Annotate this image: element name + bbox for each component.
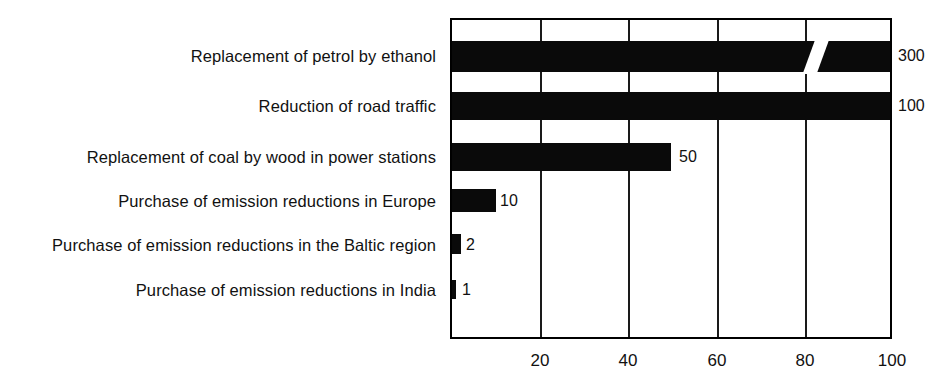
bar-coal-wood: [452, 143, 671, 171]
xtick-label-100: 100: [878, 352, 906, 369]
value-label-road-traffic: 100: [898, 98, 925, 114]
axis-break-icon: [803, 39, 830, 74]
xtick-label-80: 80: [796, 352, 815, 369]
category-label-europe: Purchase of emission reductions in Europ…: [118, 193, 436, 210]
value-label-coal-wood: 50: [679, 149, 697, 165]
plot-area: [450, 18, 892, 339]
category-label-india: Purchase of emission reductions in India: [136, 282, 436, 299]
bar-india: [452, 280, 456, 299]
bar-road-traffic: [452, 92, 890, 120]
bar-baltic: [452, 234, 461, 254]
bar-chart: Replacement of petrol by ethanol Reducti…: [0, 0, 951, 392]
xtick-label-40: 40: [619, 352, 638, 369]
value-label-india: 1: [462, 282, 471, 298]
category-label-petrol-ethanol: Replacement of petrol by ethanol: [191, 48, 436, 65]
value-label-baltic: 2: [466, 237, 475, 253]
value-label-europe: 10: [500, 193, 518, 209]
category-label-coal-wood: Replacement of coal by wood in power sta…: [87, 149, 436, 166]
bar-petrol-ethanol: [452, 41, 890, 72]
xtick-label-60: 60: [708, 352, 727, 369]
category-label-baltic: Purchase of emission reductions in the B…: [52, 237, 436, 254]
category-label-road-traffic: Reduction of road traffic: [259, 98, 436, 115]
value-label-petrol-ethanol: 300: [898, 48, 925, 64]
bar-europe: [452, 189, 496, 212]
category-axis-labels: Replacement of petrol by ethanol Reducti…: [0, 0, 444, 392]
xtick-label-20: 20: [531, 352, 550, 369]
